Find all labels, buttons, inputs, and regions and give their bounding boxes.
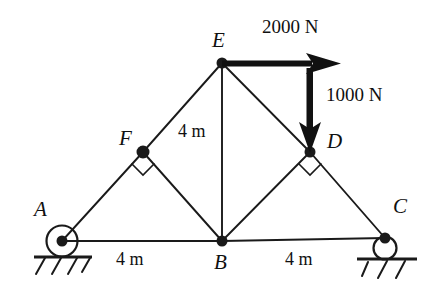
member-f-b bbox=[143, 152, 222, 241]
joint-dot-b bbox=[217, 236, 228, 247]
truss-diagram: A B C D E F 4 m 4 m 4 m 2000 N 1000 N bbox=[0, 0, 437, 298]
joint-label-d: D bbox=[327, 131, 342, 152]
support-pin-a bbox=[34, 226, 92, 275]
joint-dot-a bbox=[57, 236, 68, 247]
member-b-d bbox=[222, 152, 310, 241]
joint-label-b: B bbox=[214, 252, 227, 273]
dimension-label-span-right: 4 m bbox=[285, 250, 313, 268]
right-angle-marker-f bbox=[132, 164, 155, 176]
right-angle-marker-d bbox=[299, 164, 322, 176]
joint-dot-c bbox=[380, 233, 391, 244]
dimension-label-height: 4 m bbox=[178, 122, 206, 140]
joint-label-a: A bbox=[34, 199, 47, 220]
member-e-d bbox=[222, 63, 310, 152]
load-label-vertical: 1000 N bbox=[326, 85, 382, 104]
load-arrow-horizontal bbox=[222, 53, 341, 74]
dimension-label-span-left: 4 m bbox=[116, 250, 144, 268]
joint-dot-f bbox=[137, 146, 150, 159]
member-b-c bbox=[222, 238, 385, 241]
load-arrow-vertical bbox=[299, 68, 321, 153]
joint-label-e: E bbox=[212, 30, 225, 51]
member-d-c bbox=[310, 152, 385, 238]
joint-label-c: C bbox=[393, 196, 407, 217]
member-a-f bbox=[62, 152, 143, 241]
joint-label-f: F bbox=[119, 128, 132, 149]
load-label-horizontal: 2000 N bbox=[262, 17, 318, 36]
